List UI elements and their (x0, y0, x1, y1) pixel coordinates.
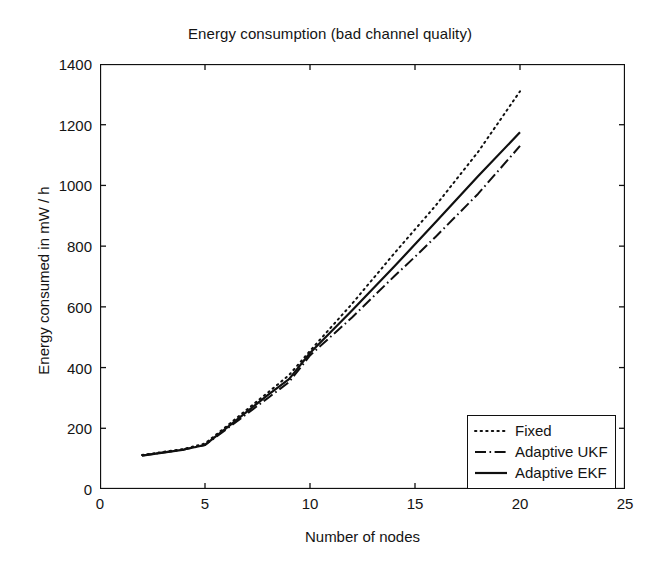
y-tick-label: 800 (32, 239, 92, 254)
y-tick-label: 600 (32, 300, 92, 315)
legend-line-sample-icon (474, 445, 508, 459)
series-line-fixed (142, 91, 520, 455)
x-tick-label: 25 (605, 496, 645, 511)
x-tick-label: 15 (395, 496, 435, 511)
chart-legend: FixedAdaptive UKFAdaptive EKF (467, 415, 616, 489)
x-axis-tick-labels: 0510152025 (100, 496, 625, 520)
legend-label: Adaptive EKF (515, 465, 607, 480)
y-tick-label: 1400 (32, 57, 92, 72)
x-axis-title: Number of nodes (100, 528, 625, 545)
series-line-adaptive-ekf (142, 132, 520, 455)
chart-title: Energy consumption (bad channel quality) (0, 25, 660, 42)
chart-figure: Energy consumption (bad channel quality)… (0, 0, 660, 566)
legend-line-sample-icon (474, 424, 508, 438)
x-tick-label: 5 (185, 496, 225, 511)
series-layer (142, 91, 520, 455)
y-tick-label: 200 (32, 421, 92, 436)
y-tick-label: 1200 (32, 118, 92, 133)
legend-item-adaptive-ukf: Adaptive UKF (474, 441, 608, 462)
y-tick-label: 1000 (32, 178, 92, 193)
legend-item-fixed: Fixed (474, 420, 608, 441)
y-axis-tick-labels: 0200400600800100012001400 (26, 64, 92, 489)
legend-label: Fixed (515, 423, 552, 438)
y-tick-label: 400 (32, 361, 92, 376)
y-tick-label: 0 (32, 482, 92, 497)
legend-item-adaptive-ekf: Adaptive EKF (474, 462, 608, 483)
x-tick-label: 0 (80, 496, 120, 511)
x-tick-label: 20 (500, 496, 540, 511)
legend-label: Adaptive UKF (515, 444, 608, 459)
legend-line-sample-icon (474, 466, 508, 480)
x-tick-label: 10 (290, 496, 330, 511)
